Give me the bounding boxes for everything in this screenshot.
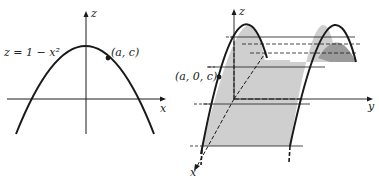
left-panel: z = 1 − x² (a, c) x z bbox=[3, 7, 167, 134]
point-label: (a, c) bbox=[111, 46, 139, 59]
z-axis-label: z bbox=[90, 7, 97, 20]
z-axis-3d-arrow-icon bbox=[232, 9, 237, 15]
x-axis-arrow-icon bbox=[160, 97, 166, 102]
point-a-c bbox=[106, 56, 111, 61]
z-axis-arrow-icon bbox=[84, 11, 89, 17]
z-axis-3d-label: z bbox=[238, 5, 245, 18]
parabola-curve bbox=[16, 46, 154, 134]
back-parabola-hidden bbox=[289, 146, 290, 162]
right-panel: (a, 0, c) z y x bbox=[175, 5, 375, 176]
equation-label: z = 1 − x² bbox=[3, 46, 60, 59]
point-3d-label: (a, 0, c) bbox=[175, 70, 217, 83]
point-a-0-c bbox=[217, 75, 222, 80]
x-axis-3d-label: x bbox=[190, 166, 197, 176]
front-parabola-hidden bbox=[201, 150, 202, 165]
diagram-canvas: z = 1 − x² (a, c) x z bbox=[0, 0, 379, 176]
y-axis-label: y bbox=[367, 100, 375, 113]
x-axis-label: x bbox=[160, 102, 167, 115]
